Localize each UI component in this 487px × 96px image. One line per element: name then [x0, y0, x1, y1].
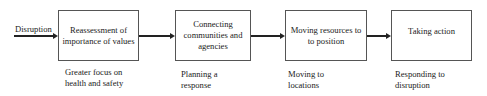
stage-caption: Greater focus on health and safety	[65, 67, 123, 88]
caption-line: response	[181, 80, 218, 91]
stage-title-line: importance of values	[62, 36, 134, 47]
disruption-label: Disruption	[15, 24, 52, 34]
caption-line: disruption	[395, 80, 445, 91]
stage-title-line: Taking action	[408, 26, 455, 37]
arrow-line	[14, 35, 54, 37]
stage-title-line: Moving resources to	[291, 25, 362, 36]
caption-line: locations	[288, 80, 324, 91]
stage-title-line: Connecting	[184, 19, 243, 30]
caption-line: health and safety	[65, 78, 123, 89]
caption-line: Greater focus on	[65, 67, 123, 78]
stage-title-line: agencies	[184, 41, 243, 52]
caption-line: Moving to	[288, 69, 324, 80]
arrow-line	[139, 35, 170, 37]
caption-line: Responding to	[395, 69, 445, 80]
stage-box-connecting: Connecting communities and agencies	[175, 10, 251, 61]
stage-title-line: communities and	[184, 30, 243, 41]
stage-box-reassessment: Reassessment of importance of values	[58, 10, 139, 61]
arrow-line	[251, 35, 280, 37]
stage-title-line: to position	[291, 36, 362, 47]
stage-caption: Responding to disruption	[395, 69, 445, 90]
stage-box-taking-action: Taking action	[391, 10, 472, 61]
stage-caption: Planning a response	[181, 69, 218, 90]
caption-line: Planning a	[181, 69, 218, 80]
stage-title-line: Reassessment of	[62, 25, 134, 36]
arrow-line	[367, 35, 386, 37]
stage-box-moving-resources: Moving resources to to position	[285, 10, 367, 61]
stage-caption: Moving to locations	[288, 69, 324, 90]
